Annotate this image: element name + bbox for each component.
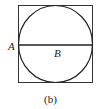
circle bbox=[19, 6, 93, 83]
label-a: A bbox=[7, 40, 15, 52]
caption: (b) bbox=[44, 93, 57, 106]
label-b: B bbox=[54, 47, 61, 59]
diagram: A B (b) bbox=[0, 0, 101, 109]
